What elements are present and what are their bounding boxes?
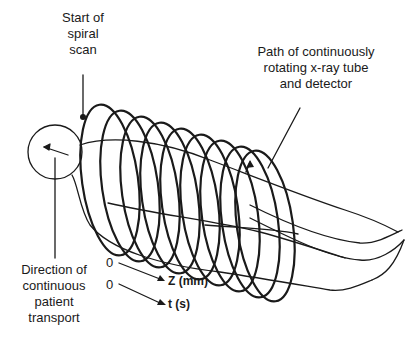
axes bbox=[119, 263, 166, 305]
path-label: Path of continuously rotating x-ray tube… bbox=[232, 44, 400, 92]
t-axis-label: t (s) bbox=[168, 297, 190, 311]
start-marker bbox=[80, 75, 86, 120]
z-axis-label: Z (mm) bbox=[168, 274, 208, 288]
t-axis-origin: 0 bbox=[106, 277, 113, 292]
start-dot bbox=[80, 114, 86, 120]
direction-label: Direction of continuous patient transpor… bbox=[4, 262, 104, 326]
start-of-spiral-label: Start of spiral scan bbox=[52, 10, 114, 58]
rotation-arrow-icon bbox=[246, 160, 254, 168]
path-leader-line bbox=[268, 108, 300, 168]
spiral-ct-diagram: Start of spiral scan Path of continuousl… bbox=[0, 0, 412, 344]
z-axis-origin: 0 bbox=[106, 255, 113, 270]
